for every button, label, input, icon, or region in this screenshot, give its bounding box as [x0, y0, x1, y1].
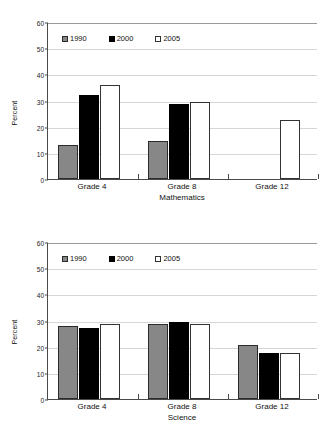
chart-page: Percent 0102030405060 1990 2000 2005 Gra…: [0, 0, 332, 437]
y-tick-label: 50: [37, 46, 44, 53]
legend-label-2000: 2000: [117, 34, 134, 43]
legend-label-1990: 1990: [70, 34, 87, 43]
chart-mathematics: Percent 0102030405060 1990 2000 2005 Gra…: [0, 6, 332, 220]
y-axis-label-mathematics: Percent: [11, 101, 18, 126]
x-tick-label: Grade 4: [78, 402, 107, 411]
x-axis-separator: [138, 174, 139, 179]
legend-swatch-2005-icon: [155, 36, 161, 42]
y-tick-label: 40: [37, 72, 44, 79]
y-tick-label: 30: [37, 98, 44, 105]
y-axis-label-science: Percent: [11, 319, 18, 344]
legend-swatch-2000-icon: [109, 36, 115, 42]
x-tick-label: Grade 8: [168, 402, 197, 411]
group-separators-mathematics: [48, 23, 317, 179]
x-tick-label: Grade 12: [255, 182, 288, 191]
chart-science: Percent 0102030405060 1990 2000 2005 Gra…: [0, 226, 332, 437]
y-tick-label: 20: [37, 344, 44, 351]
y-tick-label: 60: [37, 240, 44, 247]
legend-item-2000: 2000: [109, 34, 134, 43]
y-tick-label: 40: [37, 292, 44, 299]
x-axis-separator: [228, 394, 229, 399]
legend-mathematics: 1990 2000 2005: [62, 34, 180, 43]
legend-item-1990: 1990: [62, 254, 87, 263]
x-axis-separator: [138, 394, 139, 399]
y-tick-label: 0: [40, 397, 44, 404]
legend-swatch-2005-icon: [155, 256, 161, 262]
x-tick-label: Grade 8: [168, 182, 197, 191]
legend-swatch-1990-icon: [62, 256, 68, 262]
y-tick-label: 60: [37, 20, 44, 27]
x-axis-separator: [228, 174, 229, 179]
y-tick-label: 0: [40, 177, 44, 184]
y-tick-label: 20: [37, 124, 44, 131]
legend-label-2000: 2000: [117, 254, 134, 263]
legend-label-2005: 2005: [163, 254, 180, 263]
legend-item-2005: 2005: [155, 34, 180, 43]
group-separators-science: [48, 243, 317, 399]
y-tick-label: 10: [37, 150, 44, 157]
legend-science: 1990 2000 2005: [62, 254, 180, 263]
legend-label-2005: 2005: [163, 34, 180, 43]
x-axis-separator: [318, 394, 319, 399]
legend-item-2000: 2000: [109, 254, 134, 263]
plot-area-science: 0102030405060: [47, 243, 317, 400]
legend-swatch-1990-icon: [62, 36, 68, 42]
legend-label-1990: 1990: [70, 254, 87, 263]
x-axis-title-mathematics: Mathematics: [47, 193, 317, 202]
y-tick-label: 10: [37, 370, 44, 377]
legend-swatch-2000-icon: [109, 256, 115, 262]
y-tick-mark: [45, 400, 48, 401]
y-tick-label: 50: [37, 266, 44, 273]
y-tick-label: 30: [37, 318, 44, 325]
x-tick-label: Grade 12: [255, 402, 288, 411]
x-tick-label: Grade 4: [78, 182, 107, 191]
y-tick-mark: [45, 180, 48, 181]
x-axis-title-science: Science: [47, 413, 317, 422]
legend-item-2005: 2005: [155, 254, 180, 263]
plot-area-mathematics: 0102030405060: [47, 23, 317, 180]
legend-item-1990: 1990: [62, 34, 87, 43]
x-axis-separator: [318, 174, 319, 179]
